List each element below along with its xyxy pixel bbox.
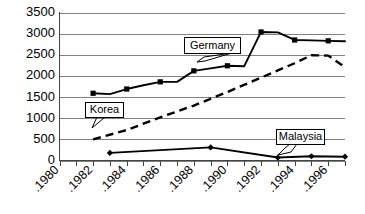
data-point-marker bbox=[90, 91, 95, 96]
data-point-marker bbox=[158, 79, 163, 84]
malaysia-callout-label: Malaysia bbox=[279, 130, 323, 142]
data-point-marker bbox=[191, 68, 196, 73]
y-tick-label: 1500 bbox=[26, 89, 55, 104]
data-point-marker bbox=[342, 154, 348, 160]
line-chart: 0500100015002000250030003500 .1980.1982.… bbox=[0, 0, 365, 214]
y-axis-tick-labels: 0500100015002000250030003500 bbox=[26, 4, 55, 167]
x-axis-tick-labels: .1980.1982.1984.1986.1988.1990.1992.1994… bbox=[30, 163, 331, 195]
data-point-marker bbox=[225, 63, 230, 68]
malaysia-markers bbox=[107, 144, 348, 160]
data-point-marker bbox=[124, 86, 129, 91]
y-tick-label: 1000 bbox=[26, 110, 55, 125]
data-point-marker bbox=[308, 153, 314, 159]
x-tick-label: .1980 bbox=[30, 163, 62, 195]
x-tick-label: .1982 bbox=[63, 163, 95, 195]
x-tick-label: .1996 bbox=[298, 163, 330, 195]
y-tick-label: 2500 bbox=[26, 46, 55, 61]
x-tick-label: .1988 bbox=[164, 163, 196, 195]
y-tick-label: 3500 bbox=[26, 4, 55, 19]
annotation-korea: Korea bbox=[86, 103, 124, 129]
annotation-germany: Germany bbox=[185, 38, 241, 63]
data-point-marker bbox=[107, 150, 113, 156]
chart-canvas: 0500100015002000250030003500 .1980.1982.… bbox=[0, 0, 365, 214]
x-tick-label: .1986 bbox=[130, 163, 162, 195]
data-point-marker bbox=[208, 144, 214, 150]
data-point-marker bbox=[292, 37, 297, 42]
y-tick-label: 2000 bbox=[26, 67, 55, 82]
data-point-marker bbox=[275, 154, 281, 160]
x-tick-label: .1992 bbox=[231, 163, 263, 195]
korea-callout-label: Korea bbox=[90, 103, 120, 115]
series-malaysia bbox=[107, 144, 348, 160]
x-tick-label: .1984 bbox=[97, 163, 129, 195]
x-tick-label: .1990 bbox=[198, 163, 230, 195]
data-point-marker bbox=[258, 29, 263, 34]
x-tick-label: .1994 bbox=[265, 163, 297, 195]
y-tick-label: 3000 bbox=[26, 25, 55, 40]
data-point-marker bbox=[326, 38, 331, 43]
annotation-malaysia: Malaysia bbox=[277, 130, 325, 156]
germany-leader-line-2 bbox=[197, 53, 232, 62]
germany-callout-label: Germany bbox=[190, 39, 236, 51]
y-tick-label: 500 bbox=[33, 131, 55, 146]
